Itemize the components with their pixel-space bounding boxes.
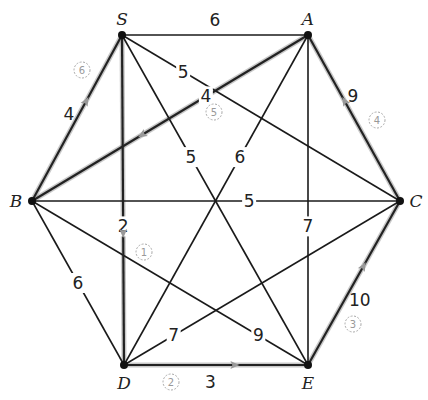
step-marker-4: 4 (374, 115, 380, 126)
edge-weight-b-e: 9 (253, 325, 264, 345)
vertex-d (120, 361, 128, 369)
edge-weight-b-d: 6 (73, 273, 84, 293)
edge-weight-s-a: 6 (210, 10, 221, 30)
vertex-e (304, 361, 312, 369)
edge-weight-c-d: 7 (168, 325, 179, 345)
vertex-s (118, 31, 126, 39)
edge-weight-s-e: 5 (185, 147, 196, 167)
vertex-label-d: D (116, 373, 131, 393)
step-marker-5: 5 (211, 107, 217, 118)
edge-weight-a-d: 6 (235, 147, 246, 167)
edge-weight-a-c: 9 (347, 86, 358, 106)
edge-weight-b-c: 5 (244, 191, 255, 211)
vertex-label-e: E (301, 373, 315, 393)
graph-diagram: 6452549675697103 123456 SABCDE (0, 0, 428, 400)
vertex-c (396, 197, 404, 205)
edge-weight-c-e: 10 (349, 290, 371, 310)
tour-edge-a-c (308, 35, 400, 201)
vertex-label-a: A (300, 9, 314, 29)
step-marker-6: 6 (79, 65, 85, 76)
edge-weight-s-b: 4 (64, 104, 75, 124)
step-marker-1: 1 (141, 247, 147, 258)
step-marker-3: 3 (350, 319, 356, 330)
edge-weight-a-b: 4 (200, 86, 211, 106)
vertex-b (28, 197, 36, 205)
edge-weight-a-e: 7 (303, 216, 314, 236)
vertex-a (304, 31, 312, 39)
vertex-label-c: C (409, 191, 422, 211)
edges (32, 35, 400, 365)
tour-edge-c-e (308, 201, 400, 365)
vertex-label-s: S (116, 9, 128, 29)
step-marker-2: 2 (168, 377, 174, 388)
vertex-label-b: B (9, 191, 23, 211)
edge-weight-d-e: 3 (205, 372, 216, 392)
edge-weight-s-c: 5 (178, 62, 189, 82)
